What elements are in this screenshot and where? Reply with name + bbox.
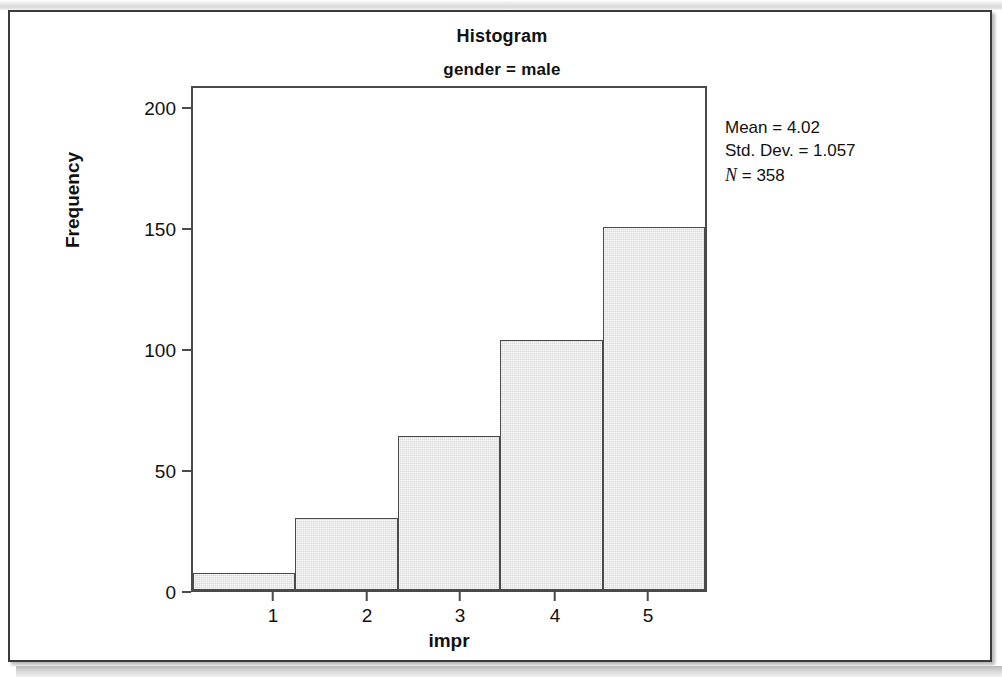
x-tick-mark xyxy=(554,592,556,601)
y-tick-label: 150 xyxy=(144,220,182,239)
histogram-figure: Histogram gender = male Frequency 0 50 1… xyxy=(8,10,992,662)
histogram-bar-2 xyxy=(295,518,397,590)
x-tick-mark xyxy=(647,592,649,601)
x-tick-mark xyxy=(272,592,274,601)
x-tick-2: 2 xyxy=(362,592,373,625)
scan-artifact-top-band xyxy=(0,0,1002,10)
x-tick-label: 1 xyxy=(268,606,279,625)
x-tick-label: 4 xyxy=(550,606,561,625)
stat-n-value: = 358 xyxy=(737,166,785,185)
histogram-bar-1 xyxy=(193,573,295,590)
stat-n-symbol: N xyxy=(725,165,737,185)
y-tick-label: 50 xyxy=(155,462,182,481)
y-tick-mark xyxy=(182,591,191,593)
histogram-bar-3 xyxy=(398,436,500,590)
histogram-bars xyxy=(193,88,705,590)
x-tick-mark xyxy=(366,592,368,601)
statistics-annotation: Mean = 4.02 Std. Dev. = 1.057 N = 358 xyxy=(725,116,856,188)
x-tick-1: 1 xyxy=(268,592,279,625)
chart-title: Histogram xyxy=(10,26,994,47)
x-tick-label: 3 xyxy=(455,606,466,625)
y-tick-mark xyxy=(182,228,191,230)
histogram-bar-4 xyxy=(500,340,602,590)
y-tick-mark xyxy=(182,349,191,351)
y-tick-label: 200 xyxy=(144,99,182,118)
histogram-bar-5 xyxy=(603,227,705,590)
x-tick-5: 5 xyxy=(643,592,654,625)
stat-std-dev: Std. Dev. = 1.057 xyxy=(725,139,856,162)
y-tick-label: 0 xyxy=(165,583,182,602)
x-tick-label: 2 xyxy=(362,606,373,625)
plot-area xyxy=(191,86,707,592)
scan-artifact-bottom-band xyxy=(16,666,1002,677)
chart-subtitle: gender = male xyxy=(10,60,994,80)
x-tick-4: 4 xyxy=(550,592,561,625)
stat-mean: Mean = 4.02 xyxy=(725,116,856,139)
x-tick-label: 5 xyxy=(643,606,654,625)
x-axis-label: impr xyxy=(191,630,707,652)
stat-n: N = 358 xyxy=(725,163,856,188)
y-tick-mark xyxy=(182,107,191,109)
x-tick-mark xyxy=(459,592,461,601)
y-tick-label: 100 xyxy=(144,341,182,360)
x-axis-ticks: 1 2 3 4 5 xyxy=(191,592,707,632)
y-tick-mark xyxy=(182,470,191,472)
x-tick-3: 3 xyxy=(455,592,466,625)
y-axis-ticks: 0 50 100 150 200 xyxy=(10,86,191,592)
